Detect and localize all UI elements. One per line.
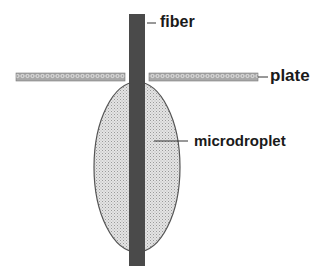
plate-right-segment	[149, 73, 258, 81]
fiber-label: fiber	[160, 13, 195, 31]
plate-label: plate	[270, 66, 310, 86]
microdroplet-label: microdroplet	[194, 132, 286, 149]
plate-left-segment	[16, 73, 125, 81]
fiber-bar	[129, 14, 145, 266]
